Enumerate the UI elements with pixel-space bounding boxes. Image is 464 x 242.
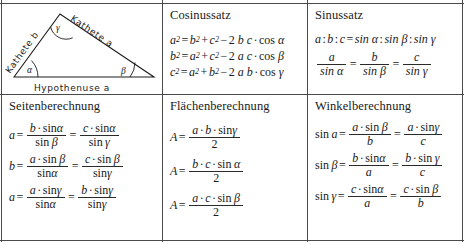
angle-arc-beta: [130, 62, 135, 77]
winkelberechnung-line-2: sin β = b·sinα a = b·sin γ c: [315, 152, 444, 179]
sinussatz-proportion: a : b : c = sin α : sin β : sin γ: [315, 32, 436, 47]
table-border-bottom: [0, 240, 464, 241]
fraction-a-over-sin-alpha: a sin α: [317, 51, 346, 78]
flaechenberechnung-formulas: A = a·b·sinγ 2 A = b·c·sin α: [163, 120, 245, 219]
cosinussatz-heading: Cosinussatz: [163, 4, 307, 22]
sinussatz-formulas: a : b : c = sin α : sin β : sin γ a sin …: [308, 32, 436, 78]
fraction: a·c·sin β 2: [189, 192, 243, 219]
winkelberechnung-formulas: sin a = a·sin β b = a·sinγ c: [308, 121, 444, 210]
angle-arc-alpha: [32, 61, 39, 77]
flaechenberechnung-line-1: A = a·b·sinγ 2: [170, 124, 245, 151]
angle-arc-gamma: [51, 27, 73, 39]
triangle-diagram-cell: α γ β Kathete b Kathete a Hypothenuse a: [2, 4, 162, 94]
fraction: c·sin β sinγ: [82, 153, 123, 180]
seitenberechnung-line-2: b = a·sin β sinα = c·sin β: [9, 153, 125, 180]
seitenberechnung-line-1: a = b·sinα sin β = c·sinα: [9, 122, 125, 149]
winkelberechnung-line-3: sin γ = c·sinα a = c·sin β b: [315, 183, 444, 210]
fraction: c·sinα a: [348, 183, 387, 210]
angle-label-gamma: γ: [56, 23, 60, 33]
winkelberechnung-heading: Winkelberechnung: [308, 95, 462, 113]
fraction: a·sin β sinα: [27, 153, 68, 180]
flaechenberechnung-line-2: A = b·c·sin α 2: [170, 158, 245, 185]
cosinussatz-line-3: c2 = a2 + b2 − 2 a b · cos γ: [170, 64, 284, 80]
winkelberechnung-line-1: sin a = a·sin β b = a·sinγ c: [315, 121, 444, 148]
cosinussatz-line-1: a2 = b2 + c2 − 2 b c · cos α: [170, 32, 284, 48]
flaechenberechnung-line-3: A = a·c·sin β 2: [170, 192, 245, 219]
flaechenberechnung-heading: Flächenberechnung: [163, 95, 307, 113]
fraction-b-over-sin-beta: b sin β: [360, 51, 389, 78]
side-label-kathete-b: Kathete b: [4, 30, 41, 76]
table-border-right: [462, 0, 463, 242]
fraction: a·sinγ c: [404, 121, 442, 148]
sinussatz-cell: Sinussatz a : b : c = sin α : sin β : si…: [308, 4, 462, 94]
cosinussatz-formulas: a2 = b2 + c2 − 2 b c · cos α b2 = a2 + c…: [163, 32, 284, 80]
seitenberechnung-cell: Seitenberechnung a = b·sinα sin β =: [2, 95, 162, 240]
seitenberechnung-line-3: a = a·sinγ sinα = b·sinγ: [9, 184, 125, 211]
cosinussatz-line-2: b2 = a2 + c2 − 2 a c · cos β: [170, 48, 284, 64]
fraction-c-over-sin-gamma: c sin γ: [403, 51, 431, 78]
side-label-kathete-a: Kathete a: [69, 13, 115, 49]
fraction: a·b·sinγ 2: [189, 124, 240, 151]
cosinussatz-cell: Cosinussatz a2 = b2 + c2 − 2 b c · cos α…: [163, 4, 307, 94]
fraction: b·sin γ c: [402, 152, 442, 179]
angle-label-beta: β: [120, 66, 126, 76]
fraction: b·sinγ sinγ: [78, 184, 116, 211]
fraction: a·sinγ sinα: [27, 184, 65, 211]
fraction: b·c·sin α 2: [189, 158, 243, 185]
triangle-figure: α γ β Kathete b Kathete a Hypothenuse a: [2, 4, 162, 94]
sinussatz-heading: Sinussatz: [308, 4, 462, 22]
fraction: b·sinα a: [349, 152, 388, 179]
fraction: a·sin β b: [349, 121, 390, 148]
fraction: c·sin β b: [400, 183, 441, 210]
seitenberechnung-heading: Seitenberechnung: [2, 95, 162, 113]
sinussatz-fraction-chain: a sin α = b sin β = c sin γ: [315, 51, 436, 78]
flaechenberechnung-cell: Flächenberechnung A = a·b·sinγ 2 A =: [163, 95, 307, 240]
seitenberechnung-formulas: a = b·sinα sin β = c·sinα: [2, 122, 125, 211]
winkelberechnung-cell: Winkelberechnung sin a = a·sin β b = a·s…: [308, 95, 462, 240]
side-label-hypothenuse: Hypothenuse a: [34, 83, 110, 93]
fraction: b·sinα sin β: [27, 122, 66, 149]
fraction: c·sinα sin γ: [80, 122, 119, 149]
angle-label-alpha: α: [27, 65, 33, 75]
formula-sheet: α γ β Kathete b Kathete a Hypothenuse a …: [0, 0, 464, 242]
